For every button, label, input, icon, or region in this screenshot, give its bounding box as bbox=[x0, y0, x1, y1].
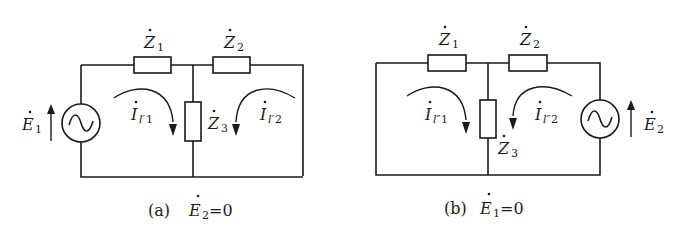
svg-text:2: 2 bbox=[237, 41, 244, 54]
label-a-z1: Z 1 bbox=[143, 29, 164, 54]
svg-text:I: I bbox=[259, 105, 267, 124]
voltage-arrow-b-e2 bbox=[627, 100, 635, 137]
svg-text:E: E bbox=[643, 115, 656, 134]
svg-text:E: E bbox=[21, 115, 34, 134]
svg-text:2: 2 bbox=[202, 209, 209, 222]
label-b-e2: E 2 bbox=[643, 111, 664, 136]
label-a-current-1: I l′ 1 bbox=[130, 101, 153, 126]
circuit-a: Z 1 Z 2 Z 3 E 1 I l′ 1 I l′ 2 bbox=[21, 29, 303, 222]
svg-text:E: E bbox=[479, 199, 492, 218]
svg-text:Z: Z bbox=[519, 30, 532, 49]
ac-source-b-e2 bbox=[581, 100, 619, 138]
svg-text:3: 3 bbox=[511, 147, 518, 160]
label-b-z3: Z 3 bbox=[497, 135, 518, 160]
svg-text:1: 1 bbox=[452, 38, 459, 51]
label-b-current-2: I l″ 2 bbox=[534, 101, 558, 126]
svg-text:Z: Z bbox=[223, 33, 236, 52]
wire-a-left-bottom bbox=[81, 142, 303, 177]
impedance-b-z3 bbox=[480, 100, 496, 138]
svg-text:(a): (a) bbox=[148, 201, 170, 220]
svg-text:I: I bbox=[534, 105, 542, 124]
svg-text:I: I bbox=[424, 105, 432, 124]
svg-text:=0: =0 bbox=[209, 201, 233, 220]
svg-text:l′: l′ bbox=[268, 113, 275, 126]
label-a-z2: Z 2 bbox=[223, 29, 244, 54]
label-a-current-2: I l′ 2 bbox=[259, 101, 282, 126]
circuit-figure: Z 1 Z 2 Z 3 E 1 I l′ 1 I l′ 2 bbox=[0, 0, 679, 238]
svg-text:l′: l′ bbox=[139, 113, 146, 126]
impedance-b-z2 bbox=[509, 55, 547, 71]
label-b-current-1: I l″ 1 bbox=[424, 101, 448, 126]
label-a-e1: E 1 bbox=[21, 111, 42, 136]
label-b-z2: Z 2 bbox=[519, 26, 540, 51]
svg-text:=0: =0 bbox=[500, 199, 524, 218]
svg-text:I: I bbox=[130, 105, 138, 124]
svg-text:1: 1 bbox=[35, 123, 42, 136]
circuit-b: Z 1 Z 2 Z 3 E 2 I l″ 1 I l″ 2 bbox=[376, 26, 664, 220]
svg-text:Z: Z bbox=[207, 114, 220, 133]
impedance-a-z3 bbox=[185, 102, 201, 141]
svg-text:Z: Z bbox=[143, 33, 156, 52]
impedance-b-z1 bbox=[428, 55, 466, 71]
caption-a: (a) E 2 =0 bbox=[148, 195, 233, 222]
impedance-a-z1 bbox=[134, 57, 171, 73]
svg-text:(b): (b) bbox=[444, 199, 467, 218]
svg-text:2: 2 bbox=[275, 113, 282, 126]
label-b-z1: Z 1 bbox=[438, 26, 459, 51]
label-a-z3: Z 3 bbox=[207, 110, 228, 135]
svg-text:2: 2 bbox=[657, 123, 664, 136]
svg-text:1: 1 bbox=[441, 113, 448, 126]
svg-text:Z: Z bbox=[497, 139, 510, 158]
svg-text:1: 1 bbox=[493, 207, 500, 220]
mesh-arrow-b-1 bbox=[407, 87, 470, 134]
svg-text:2: 2 bbox=[551, 113, 558, 126]
svg-text:E: E bbox=[188, 201, 201, 220]
ac-source-a-e1 bbox=[62, 104, 100, 142]
svg-text:1: 1 bbox=[157, 41, 164, 54]
wire-b-top-right bbox=[547, 63, 600, 100]
svg-text:3: 3 bbox=[221, 122, 228, 135]
svg-text:Z: Z bbox=[438, 30, 451, 49]
caption-b: (b) E 1 =0 bbox=[444, 193, 524, 220]
svg-text:1: 1 bbox=[146, 113, 153, 126]
voltage-arrow-a-e1 bbox=[47, 104, 55, 141]
impedance-a-z2 bbox=[213, 57, 250, 73]
svg-text:2: 2 bbox=[533, 38, 540, 51]
